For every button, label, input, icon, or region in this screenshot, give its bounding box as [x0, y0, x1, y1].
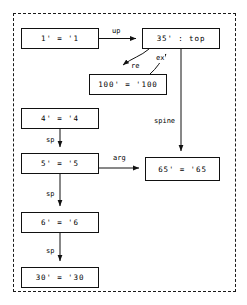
edge-label-ex: ex	[155, 54, 165, 63]
node-1[interactable]: 1' = '1	[21, 28, 99, 49]
node-100[interactable]: 100' = '100	[89, 74, 167, 95]
node-6[interactable]: 6' = '6	[21, 212, 99, 233]
edge-label-sp-5-6: sp	[45, 190, 55, 199]
edge-label-arg: arg	[112, 154, 127, 163]
edge-label-re: re	[130, 62, 140, 71]
node-35-top[interactable]: 35' : top	[142, 28, 220, 49]
node-65[interactable]: 65' = '65	[145, 157, 220, 181]
edge-label-sp-4-5: sp	[45, 136, 55, 145]
diagram-canvas: 1' = '1 35' : top 100' = '100 4' = '4 5'…	[0, 0, 247, 305]
edge-label-sp-6-30: sp	[45, 247, 55, 256]
edge-label-spine: spine	[153, 117, 176, 126]
edge-label-up: up	[111, 27, 121, 36]
node-4[interactable]: 4' = '4	[21, 108, 99, 129]
node-5[interactable]: 5' = '5	[21, 153, 99, 174]
node-30[interactable]: 30' = '30	[21, 267, 99, 288]
